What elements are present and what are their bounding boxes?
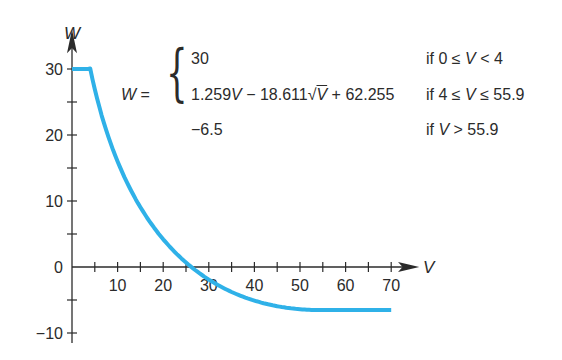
case-3-condition: if V > 55.9	[426, 121, 499, 139]
y-axis-label: W	[64, 24, 82, 43]
x-tick-label: 60	[337, 277, 355, 294]
y-tick-label: 20	[45, 127, 63, 144]
case-1-condition: if 0 ≤ V < 4	[426, 50, 503, 68]
brace-symbol: {	[166, 42, 188, 104]
data-line	[72, 69, 391, 311]
x-tick-label: 50	[291, 277, 309, 294]
y-tick-label: −10	[36, 325, 63, 342]
case-2-condition: if 4 ≤ V ≤ 55.9	[426, 86, 525, 104]
y-tick-label: 0	[54, 259, 63, 276]
equation-lhs: W =	[121, 86, 150, 104]
x-tick-label: 70	[382, 277, 400, 294]
case-1-expr: 30	[191, 50, 209, 68]
y-tick-label: 10	[45, 193, 63, 210]
x-tick-label: 20	[154, 277, 172, 294]
y-tick-label: 30	[45, 61, 63, 78]
x-axis-label: V	[423, 258, 436, 277]
case-2-expr: 1.259V − 18.611√V + 62.255	[191, 86, 394, 104]
x-tick-label: 10	[109, 277, 127, 294]
x-tick-label: 40	[246, 277, 264, 294]
case-3-expr: −6.5	[191, 121, 223, 139]
